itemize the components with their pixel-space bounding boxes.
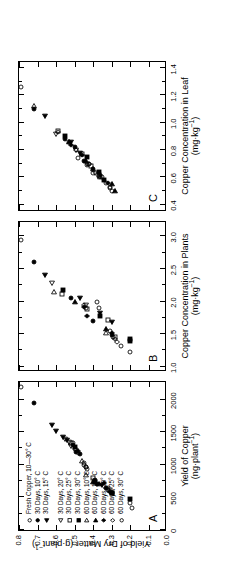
data-point (51, 289, 57, 295)
x-axis-minor-tick-top (19, 317, 22, 318)
x-axis-tick-label: 0 (169, 529, 178, 533)
x-axis-minor-tick (162, 513, 165, 514)
y-axis-tick-label: 0.2 (125, 535, 134, 554)
x-axis-minor-tick (162, 252, 165, 253)
data-point (86, 161, 92, 167)
y-axis-tick (38, 205, 39, 210)
y-axis-tick-right (19, 62, 20, 67)
x-axis-minor-tick (162, 81, 165, 82)
x-axis-tick-top (19, 431, 24, 432)
x-axis-tick-label: 3.0 (169, 232, 178, 242)
x-axis-tick (160, 235, 165, 236)
x-axis-tick (160, 496, 165, 497)
x-axis-tick-top (19, 399, 24, 400)
x-axis-tick (160, 94, 165, 95)
y-axis-tick (19, 365, 20, 370)
legend-marker-open-left-triangle-icon (58, 515, 63, 525)
figure-canvas: Yield of Dry Matter (g·plant−1) 0.00.10.… (0, 0, 229, 572)
x-axis-minor-tick (162, 190, 165, 191)
plot-area: C (19, 62, 165, 210)
y-axis-tick (19, 205, 20, 210)
x-axis-tick-label: 1.5 (169, 330, 178, 340)
data-point (49, 280, 55, 286)
legend-marker-filled-right-triangle-icon (93, 515, 98, 525)
data-point (19, 384, 24, 390)
y-axis-tick-right (93, 62, 94, 67)
y-axis-tick (149, 205, 150, 210)
legend-item: 30 Days, 10° C (34, 442, 43, 525)
y-axis-tick (112, 525, 113, 530)
x-axis-minor-tick-top (19, 108, 22, 109)
data-point (77, 295, 83, 301)
x-axis-minor-tick (162, 284, 165, 285)
legend-item-label: 60 Days, 30° C (118, 471, 124, 515)
x-axis-tick-label: 1500 (169, 425, 178, 442)
y-axis-tick-right (38, 62, 39, 67)
x-axis-minor-tick (162, 108, 165, 109)
data-point (19, 84, 24, 90)
data-point (60, 287, 66, 293)
x-axis-tick (160, 529, 165, 530)
x-axis-title-line2: (mg·kg−1) (190, 36, 200, 236)
y-axis-tick (19, 525, 20, 530)
x-axis-minor-tick-top (19, 190, 22, 191)
y-axis-tick-right (130, 382, 131, 387)
figure-rotation-wrapper: Yield of Dry Matter (g·plant−1) 0.00.10.… (0, 0, 229, 572)
data-point (110, 334, 116, 340)
x-axis-tick-label: 2.5 (169, 265, 178, 275)
legend-item-label: 60 Days, 10° C (84, 471, 90, 515)
y-axis-tick-right (56, 62, 57, 67)
y-axis-tick-right (93, 222, 94, 227)
x-axis-tick-label: 2000 (169, 392, 178, 409)
legend-item: 60 Days, 20° C (100, 442, 109, 525)
y-axis-tick-label: 0.6 (51, 535, 60, 554)
y-axis-tick-label: 0.1 (143, 535, 152, 554)
x-axis-tick (160, 204, 165, 205)
legend-item: 60 Days, 10° C (83, 442, 92, 525)
legend-item: 30 Days, 30° C (74, 442, 83, 525)
data-point (105, 317, 111, 323)
y-axis-tick (130, 525, 131, 530)
y-axis-tick (112, 365, 113, 370)
legend-item: 30 Days, 20° C (57, 442, 66, 525)
y-axis-tick-label: 0.3 (106, 535, 115, 554)
plot-panel-c: C (18, 61, 166, 211)
y-axis-tick-label: 0.5 (69, 535, 78, 554)
y-axis-tick-label: 0.8 (14, 535, 23, 554)
y-axis-tick (38, 525, 39, 530)
legend-item-label: 30 Days, 20° C (58, 471, 64, 515)
x-axis-tick (160, 268, 165, 269)
x-axis-tick-label: 1000 (169, 457, 178, 474)
y-axis-tick-right (130, 62, 131, 67)
x-axis-tick-label: 1.0 (169, 363, 178, 373)
x-axis-title-line1: Copper Concentration in Leaf (180, 36, 190, 236)
y-axis-tick-right (149, 382, 150, 387)
data-point (84, 313, 90, 319)
data-point (118, 343, 124, 349)
panel-letter-b: B (147, 355, 159, 362)
legend-item-label: 30 Days, 30° C (75, 471, 81, 515)
legend-item-label: 60 Days, 15° C (92, 471, 98, 515)
data-point (127, 336, 133, 342)
x-axis-minor-tick (162, 349, 165, 350)
data-point (79, 152, 85, 158)
data-point (72, 299, 78, 305)
x-axis-tick-label: 1.2 (169, 91, 178, 101)
data-point (73, 147, 79, 153)
x-axis-title-c: Copper Concentration in Leaf(mg·kg−1) (180, 36, 200, 236)
data-point (99, 174, 105, 180)
legend-item: 60 Days, 25° C (108, 442, 117, 525)
y-axis-tick (75, 525, 76, 530)
x-axis-tick-top (19, 149, 24, 150)
x-axis-tick (160, 67, 165, 68)
x-axis-minor-tick-top (19, 513, 22, 514)
y-axis-tick (56, 365, 57, 370)
y-axis-tick (75, 365, 76, 370)
x-axis-tick-label: 0.4 (169, 200, 178, 210)
x-axis-minor-tick-top (19, 163, 22, 164)
x-axis-tick-label: 0.6 (169, 173, 178, 183)
data-point (83, 305, 89, 311)
y-axis-tick (130, 205, 131, 210)
legend-marker-open-circle-icon (27, 515, 32, 525)
y-axis-tick (75, 205, 76, 210)
